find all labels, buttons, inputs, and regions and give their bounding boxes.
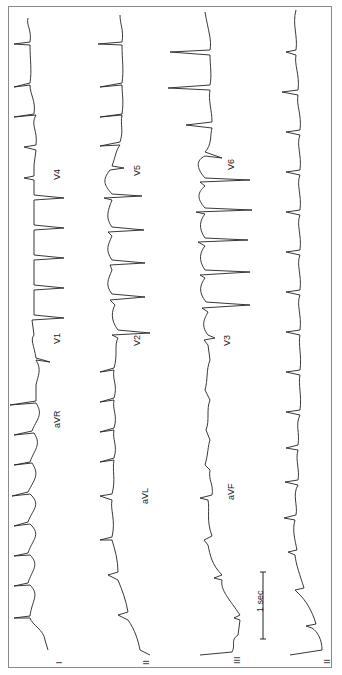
lead-label-V1: V1 bbox=[52, 333, 62, 344]
lead-label-II-rhythm: II bbox=[322, 659, 332, 664]
lead-label-aVR: aVR bbox=[52, 410, 62, 428]
lead-label-III: III bbox=[232, 656, 242, 664]
scale-bar-label: 1 sec bbox=[255, 590, 265, 612]
lead-label-V5: V5 bbox=[132, 165, 142, 176]
trace-row-3 bbox=[168, 12, 252, 655]
lead-label-aVL: aVL bbox=[140, 488, 150, 504]
lead-label-II: II bbox=[141, 660, 151, 665]
lead-label-aVF: aVF bbox=[226, 483, 236, 500]
lead-label-V2: V2 bbox=[132, 335, 142, 346]
lead-label-V6: V6 bbox=[226, 159, 236, 170]
lead-label-V3: V3 bbox=[222, 335, 232, 346]
trace-rhythm-II bbox=[282, 10, 322, 655]
lead-label-V4: V4 bbox=[52, 169, 62, 180]
trace-row-2 bbox=[98, 15, 150, 655]
lead-label-I: I bbox=[54, 661, 64, 664]
